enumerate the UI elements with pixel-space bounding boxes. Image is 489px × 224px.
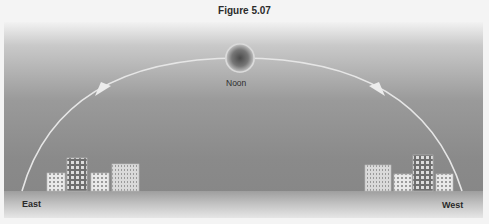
building xyxy=(91,173,109,191)
sun-icon xyxy=(225,43,255,73)
building xyxy=(365,165,391,191)
noon-label: Noon xyxy=(226,78,246,88)
building xyxy=(394,174,412,191)
building xyxy=(413,155,433,191)
building xyxy=(436,174,453,191)
east-label: East xyxy=(22,199,41,209)
building xyxy=(67,158,87,191)
buildings-east xyxy=(47,158,139,191)
diagram-scene xyxy=(0,0,489,224)
figure-title: Figure 5.07 xyxy=(0,5,489,16)
building xyxy=(112,164,139,191)
building xyxy=(47,173,65,191)
buildings-west xyxy=(365,155,453,191)
west-label: West xyxy=(442,200,463,210)
